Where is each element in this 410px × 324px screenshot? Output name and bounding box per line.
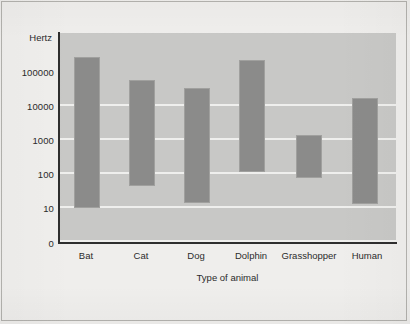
x-axis-tick-label: Dolphin: [235, 250, 267, 261]
x-axis-line: [58, 242, 397, 244]
x-axis-tick-label: Grasshopper: [282, 250, 337, 261]
gridline: [59, 172, 396, 174]
x-axis-tick-label: Human: [352, 250, 383, 261]
y-axis-tick-label: 10: [2, 203, 54, 214]
bar-grasshopper: [296, 135, 322, 178]
y-axis-line: [58, 32, 60, 244]
y-axis-tick-labels: 100000100001000100100: [0, 0, 54, 324]
bar-bat: [74, 57, 100, 208]
bar-cat: [129, 80, 155, 186]
gridline: [59, 138, 396, 140]
x-axis-tick-labels: BatCatDogDolphinGrasshopperHuman: [59, 250, 396, 264]
y-axis-tick-label: 1000: [2, 135, 54, 146]
y-axis-tick-label: 10000: [2, 101, 54, 112]
plot-area: [59, 33, 396, 242]
x-axis-title: Type of animal: [59, 272, 396, 283]
bar-dog: [184, 88, 210, 203]
y-axis-tick-label: 100000: [2, 67, 54, 78]
gridline: [59, 206, 396, 208]
x-axis-tick-label: Bat: [79, 250, 93, 261]
x-axis-tick-label: Cat: [134, 250, 149, 261]
y-axis-tick-label: 100: [2, 169, 54, 180]
chart-page: Hertz 100000100001000100100 BatCatDogDol…: [0, 0, 410, 324]
x-axis-tick-label: Dog: [187, 250, 204, 261]
bar-dolphin: [239, 60, 265, 172]
y-axis-tick-label: 0: [2, 238, 54, 249]
bar-human: [352, 98, 378, 204]
gridline: [59, 104, 396, 106]
